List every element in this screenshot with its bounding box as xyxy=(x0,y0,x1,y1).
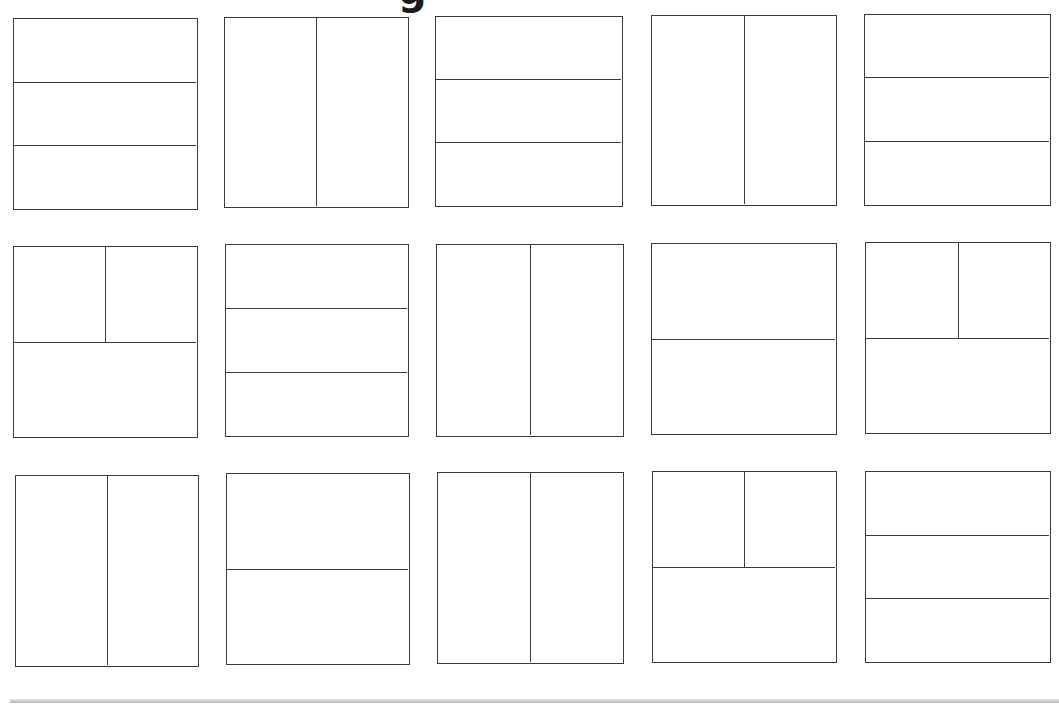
vertical-gutter xyxy=(530,473,531,662)
layout-thumbnail-two-top-one-bottom[interactable] xyxy=(652,471,837,663)
horizontal-gutter xyxy=(866,598,1049,599)
horizontal-gutter xyxy=(653,567,835,568)
horizontal-gutter xyxy=(865,141,1049,142)
layout-thumbnail-three-horizontal-strips[interactable] xyxy=(864,14,1051,206)
layout-thumbnail-two-vertical-columns[interactable] xyxy=(15,475,199,667)
layout-thumbnail-two-vertical-columns[interactable] xyxy=(436,244,624,437)
layout-thumbnail-two-horizontal-halves[interactable] xyxy=(651,243,837,435)
horizontal-gutter xyxy=(865,77,1049,78)
layout-thumbnail-two-vertical-columns[interactable] xyxy=(651,15,837,206)
layout-thumbnail-two-top-one-bottom[interactable] xyxy=(865,242,1051,434)
layout-thumbnail-three-horizontal-strips[interactable] xyxy=(225,244,409,437)
horizontal-gutter xyxy=(226,372,407,373)
vertical-gutter xyxy=(744,16,745,204)
horizontal-gutter xyxy=(14,342,196,343)
horizontal-gutter xyxy=(14,145,196,146)
layout-thumbnail-two-vertical-columns[interactable] xyxy=(437,472,624,664)
vertical-gutter xyxy=(530,245,531,435)
layout-thumbnail-two-top-one-bottom[interactable] xyxy=(13,246,198,438)
layout-thumbnail-three-horizontal-strips[interactable] xyxy=(13,18,198,210)
layout-thumbnail-three-horizontal-strips[interactable] xyxy=(865,471,1051,663)
horizontal-gutter xyxy=(226,308,407,309)
vertical-gutter-top xyxy=(958,243,959,338)
horizontal-gutter xyxy=(227,569,408,570)
layout-thumbnail-three-horizontal-strips[interactable] xyxy=(435,16,623,207)
layout-thumbnail-two-horizontal-halves[interactable] xyxy=(226,473,410,665)
page-title-fragment: g xyxy=(398,0,427,10)
vertical-gutter xyxy=(316,18,317,206)
horizontal-gutter xyxy=(436,142,621,143)
horizontal-gutter xyxy=(14,82,196,83)
layout-thumbnail-two-vertical-columns[interactable] xyxy=(224,17,409,208)
horizontal-gutter xyxy=(866,338,1049,339)
horizontal-gutter xyxy=(652,339,835,340)
bottom-divider-bar xyxy=(10,699,1059,703)
horizontal-gutter xyxy=(866,535,1049,536)
horizontal-gutter xyxy=(436,79,621,80)
vertical-gutter xyxy=(107,476,108,665)
vertical-gutter-top xyxy=(744,472,745,567)
vertical-gutter-top xyxy=(105,247,106,342)
